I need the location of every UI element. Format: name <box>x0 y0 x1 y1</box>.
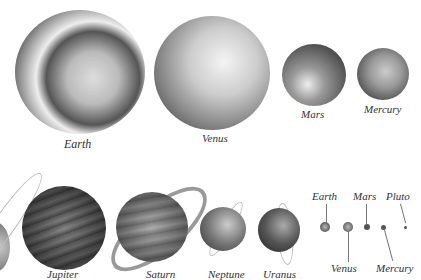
mars-label: Mars <box>301 108 324 120</box>
scale-pluto-label: Pluto <box>386 190 410 202</box>
scale-pluto-dot <box>404 226 407 229</box>
scale-earth-label: Earth <box>312 190 337 202</box>
scale-earth-leader <box>326 204 327 222</box>
scale-venus-label: Venus <box>331 262 357 274</box>
scale-mars-dot <box>364 224 370 230</box>
neptune-planet <box>200 207 246 251</box>
scale-pluto-leader <box>400 204 406 224</box>
neptune-label: Neptune <box>208 268 245 280</box>
venus-planet <box>154 16 270 130</box>
mars-planet <box>282 44 346 106</box>
scale-earth-dot <box>320 222 330 232</box>
mercury-label: Mercury <box>364 103 401 115</box>
earth-label: Earth <box>64 137 91 152</box>
scale-mercury-label: Mercury <box>376 262 413 274</box>
scale-mercury-leader <box>384 230 393 261</box>
uranus-planet <box>258 208 300 252</box>
jupiter-label: Jupiter <box>47 268 78 280</box>
scale-venus-dot <box>343 222 353 232</box>
saturn-label: Saturn <box>146 268 175 280</box>
venus-label: Venus <box>202 132 228 144</box>
scale-mars-leader <box>366 204 367 224</box>
earth-planet <box>15 10 145 134</box>
jupiter-planet <box>22 186 106 270</box>
scale-venus-leader <box>348 232 349 262</box>
uranus-label: Uranus <box>263 268 296 280</box>
scale-mars-label: Mars <box>353 190 376 202</box>
saturn-planet <box>116 192 188 262</box>
mercury-planet <box>357 48 409 100</box>
